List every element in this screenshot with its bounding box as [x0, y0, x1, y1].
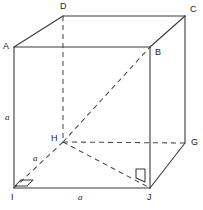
edge-B-C — [150, 16, 185, 47]
label-side-AI: a — [5, 113, 10, 122]
dashed-edge-group — [14, 16, 185, 188]
vertex-label-j: J — [147, 193, 152, 202]
edge-H-G — [63, 142, 185, 143]
edge-A-D — [14, 16, 63, 47]
vertex-label-c: C — [190, 5, 197, 14]
label-side-HI: a — [33, 154, 38, 163]
vertex-label-a: A — [3, 42, 9, 51]
right-angle-marker-group — [15, 169, 145, 186]
vertex-label-h: H — [51, 134, 58, 143]
edge-H-J — [63, 142, 150, 188]
label-side-IJ: a — [78, 193, 83, 202]
cube-figure-svg — [0, 0, 203, 210]
vertex-label-g: G — [191, 138, 198, 147]
edge-H-I — [14, 142, 63, 188]
vertex-label-b: B — [155, 48, 161, 57]
right-angle-marker-I — [15, 180, 33, 186]
vertex-label-i: I — [11, 193, 14, 202]
diagonal-H-B — [63, 47, 150, 142]
edge-J-G — [150, 143, 185, 188]
vertex-label-d: D — [60, 2, 67, 11]
cube-diagram-canvas: ABCDGHIJ aaa — [0, 0, 203, 210]
right-angle-marker-J — [136, 169, 145, 182]
